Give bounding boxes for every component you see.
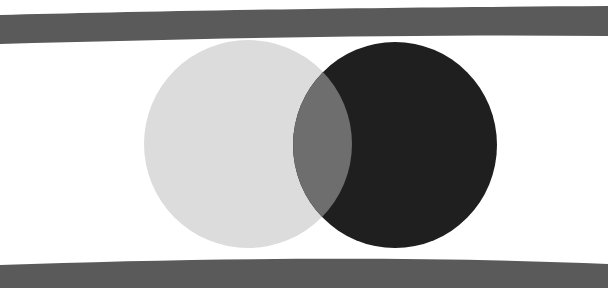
artwork-canvas [0, 0, 608, 288]
bottom-band [0, 259, 608, 288]
top-band [0, 6, 608, 44]
